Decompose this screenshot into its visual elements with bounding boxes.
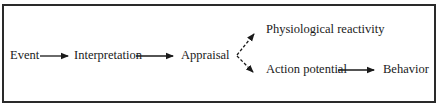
node-appraisal: Appraisal xyxy=(181,48,230,62)
dashed-arrow-appraisal-to-physiological xyxy=(237,34,254,55)
node-action-potential: Action potential xyxy=(266,62,347,76)
node-event: Event xyxy=(10,48,39,62)
node-physiological-reactivity: Physiological reactivity xyxy=(266,22,384,36)
dashed-arrow-appraisal-to-action xyxy=(237,56,253,72)
node-behavior: Behavior xyxy=(383,62,429,76)
node-interpretation: Interpretation xyxy=(74,48,142,62)
